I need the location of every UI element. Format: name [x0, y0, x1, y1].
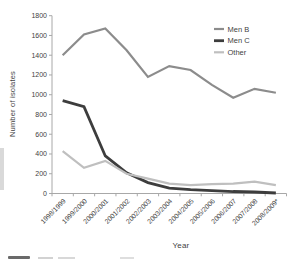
y-axis-title: Number of isolates — [8, 71, 17, 137]
y-tick-label: 0 — [43, 190, 47, 197]
y-tick-label: 200 — [35, 170, 47, 177]
series-line-men-c — [63, 101, 276, 193]
y-tick-label: 1600 — [31, 32, 47, 39]
x-axis-title: Year — [173, 241, 190, 250]
y-tick-label: 800 — [35, 111, 47, 118]
legend-label-men-c: Men C — [228, 36, 251, 45]
y-tick-label: 1200 — [31, 71, 47, 78]
y-tick-label: 1000 — [31, 91, 47, 98]
line-chart: 0200400600800100012001400160018001998/19… — [0, 0, 291, 265]
legend-label-men-b: Men B — [228, 25, 250, 34]
cropped-text-smudge — [58, 257, 75, 259]
legend-label-other: Other — [228, 48, 247, 57]
cropped-text-smudge — [120, 257, 134, 259]
cropped-caption-fragment — [0, 255, 291, 259]
y-tick-label: 1800 — [31, 12, 47, 19]
series-line-other — [63, 151, 276, 185]
cropped-text-smudge — [8, 256, 30, 259]
cropped-text-smudge — [38, 257, 53, 259]
y-tick-label: 600 — [35, 131, 47, 138]
figure-page: 0200400600800100012001400160018001998/19… — [0, 0, 291, 265]
y-tick-label: 1400 — [31, 52, 47, 59]
y-tick-label: 400 — [35, 150, 47, 157]
